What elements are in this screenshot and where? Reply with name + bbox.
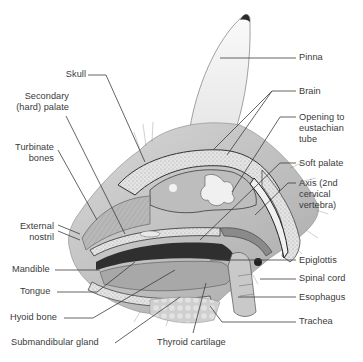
label-submandibular-gland: Submandibular gland	[11, 337, 99, 348]
label-brain: Brain	[299, 86, 321, 97]
label-epiglottis: Epiglottis	[299, 255, 337, 266]
label-thyroid-cartilage: Thyroid cartilage	[157, 337, 226, 348]
label-axis: Axis (2nd cervical vertebra)	[299, 178, 338, 211]
pinna-shape	[190, 14, 250, 135]
label-mandible: Mandible	[12, 264, 50, 275]
label-opening-to-eustachian-tube: Opening to eustachian tube	[299, 112, 344, 145]
label-esophagus: Esophagus	[299, 292, 345, 303]
label-spinal-cord: Spinal cord	[299, 273, 346, 284]
label-external-nostril: External nostril	[20, 221, 54, 243]
label-hyoid-bone: Hyoid bone	[10, 312, 57, 323]
label-skull: Skull	[66, 69, 86, 80]
label-trachea: Trachea	[299, 316, 333, 327]
label-tongue: Tongue	[20, 286, 50, 297]
larynx-shape	[228, 252, 262, 316]
label-soft-palate: Soft palate	[299, 158, 343, 169]
submandibular-gland-shape	[150, 297, 220, 323]
label-secondary-hard-palate: Secondary (hard) palate	[16, 91, 69, 113]
label-turbinate-bones: Turbinate bones	[15, 142, 54, 164]
label-pinna: Pinna	[299, 52, 323, 63]
